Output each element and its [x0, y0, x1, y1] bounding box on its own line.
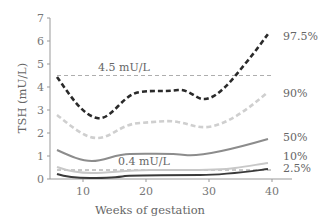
y-axis-title: TSH (mU/L) — [15, 63, 29, 133]
svg-text:7: 7 — [37, 12, 44, 25]
x-axis-title: Weeks of gestation — [95, 203, 206, 217]
svg-text:1: 1 — [37, 150, 44, 163]
curve-p97-5 — [57, 34, 268, 118]
tsh-percentile-chart: 0 1 2 3 4 5 6 7 10 20 30 40 TSH (mU/L) W… — [0, 0, 330, 223]
y-tick-labels: 0 1 2 3 4 5 6 7 — [37, 12, 44, 186]
svg-text:3: 3 — [37, 104, 44, 117]
label-p50: 50% — [283, 131, 307, 144]
reference-label-lower: 0.4 mU/L — [118, 155, 170, 168]
svg-text:20: 20 — [139, 185, 153, 198]
reference-label-upper: 4.5 mU/L — [98, 61, 150, 74]
svg-text:6: 6 — [37, 35, 44, 48]
x-tick-labels: 10 20 30 40 — [76, 185, 279, 198]
svg-text:30: 30 — [202, 185, 216, 198]
svg-text:0: 0 — [37, 173, 44, 186]
label-p90: 90% — [283, 87, 307, 100]
label-p2-5: 2.5% — [283, 162, 311, 175]
svg-text:40: 40 — [265, 185, 279, 198]
svg-text:10: 10 — [76, 185, 90, 198]
svg-text:4: 4 — [37, 81, 44, 94]
svg-text:5: 5 — [37, 58, 44, 71]
svg-text:2: 2 — [37, 127, 44, 140]
label-p97-5: 97.5% — [283, 30, 318, 43]
